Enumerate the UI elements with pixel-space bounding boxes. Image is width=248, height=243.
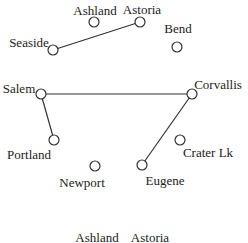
node-label-ashland: Ashland — [73, 4, 116, 17]
node-label-eugene: Eugene — [146, 174, 185, 187]
node-label-bend: Bend — [164, 22, 191, 35]
node-label-salem: Salem — [3, 82, 36, 95]
node-label-seaside: Seaside — [9, 36, 49, 49]
node-salem[interactable] — [36, 89, 46, 99]
node-newport[interactable] — [90, 161, 100, 171]
node-seaside[interactable] — [48, 45, 58, 55]
node-portland[interactable] — [49, 135, 59, 145]
bottom-label-ashland: Ashland — [75, 231, 118, 243]
bottom-label-astoria: Astoria — [131, 231, 169, 243]
node-astoria[interactable] — [135, 17, 145, 27]
edge-salem-portland — [41, 94, 54, 140]
node-label-newport: Newport — [59, 176, 105, 189]
node-eugene[interactable] — [137, 160, 147, 170]
node-label-astoria: Astoria — [123, 3, 161, 16]
node-label-corvallis: Corvallis — [194, 78, 242, 91]
node-bend[interactable] — [172, 42, 182, 52]
node-label-portland: Portland — [7, 148, 51, 161]
node-ashland[interactable] — [89, 17, 99, 27]
node-label-craterlk: Crater Lk — [183, 146, 233, 159]
node-craterlk[interactable] — [175, 135, 185, 145]
